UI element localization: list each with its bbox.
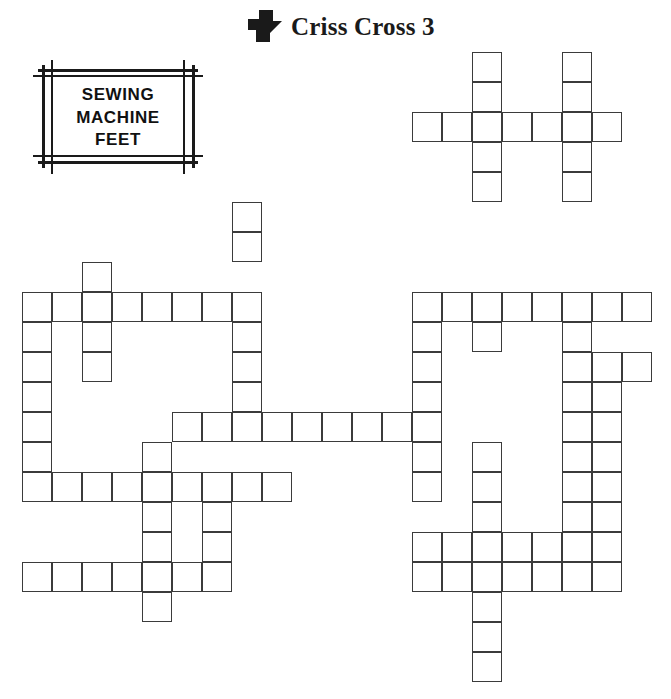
crossword-cell[interactable]	[82, 352, 112, 382]
crossword-cell[interactable]	[142, 592, 172, 622]
crossword-cell[interactable]	[532, 112, 562, 142]
crossword-cell[interactable]	[472, 472, 502, 502]
crossword-cell[interactable]	[82, 292, 112, 322]
crossword-cell[interactable]	[412, 112, 442, 142]
crossword-cell[interactable]	[412, 382, 442, 412]
crossword-cell[interactable]	[22, 382, 52, 412]
crossword-cell[interactable]	[562, 382, 592, 412]
crossword-cell[interactable]	[562, 472, 592, 502]
crossword-cell[interactable]	[532, 292, 562, 322]
crossword-cell[interactable]	[472, 292, 502, 322]
crossword-cell[interactable]	[562, 322, 592, 352]
crossword-cell[interactable]	[562, 562, 592, 592]
crossword-cell[interactable]	[142, 502, 172, 532]
crossword-cell[interactable]	[562, 352, 592, 382]
crossword-cell[interactable]	[232, 412, 262, 442]
crossword-cell[interactable]	[172, 292, 202, 322]
crossword-cell[interactable]	[172, 412, 202, 442]
crossword-cell[interactable]	[622, 352, 652, 382]
crossword-cell[interactable]	[202, 532, 232, 562]
crossword-cell[interactable]	[142, 442, 172, 472]
crossword-cell[interactable]	[232, 352, 262, 382]
crossword-cell[interactable]	[562, 82, 592, 112]
crossword-cell[interactable]	[502, 112, 532, 142]
crossword-cell[interactable]	[412, 562, 442, 592]
crossword-cell[interactable]	[82, 262, 112, 292]
crossword-cell[interactable]	[412, 292, 442, 322]
crossword-cell[interactable]	[592, 532, 622, 562]
crossword-cell[interactable]	[22, 322, 52, 352]
crossword-cell[interactable]	[22, 562, 52, 592]
crossword-cell[interactable]	[112, 562, 142, 592]
crossword-cell[interactable]	[82, 562, 112, 592]
crossword-cell[interactable]	[562, 172, 592, 202]
crossword-cell[interactable]	[412, 472, 442, 502]
crossword-cell[interactable]	[82, 472, 112, 502]
crossword-cell[interactable]	[472, 322, 502, 352]
crossword-cell[interactable]	[232, 322, 262, 352]
crossword-cell[interactable]	[82, 322, 112, 352]
crossword-cell[interactable]	[142, 532, 172, 562]
crossword-cell[interactable]	[472, 112, 502, 142]
crossword-cell[interactable]	[592, 442, 622, 472]
crossword-cell[interactable]	[472, 442, 502, 472]
crossword-cell[interactable]	[412, 532, 442, 562]
crossword-cell[interactable]	[112, 472, 142, 502]
crossword-grid[interactable]	[0, 0, 671, 699]
crossword-cell[interactable]	[502, 562, 532, 592]
crossword-cell[interactable]	[292, 412, 322, 442]
crossword-cell[interactable]	[52, 472, 82, 502]
crossword-cell[interactable]	[22, 352, 52, 382]
crossword-cell[interactable]	[442, 112, 472, 142]
crossword-cell[interactable]	[472, 172, 502, 202]
crossword-cell[interactable]	[202, 562, 232, 592]
crossword-cell[interactable]	[112, 292, 142, 322]
crossword-cell[interactable]	[142, 562, 172, 592]
crossword-cell[interactable]	[502, 532, 532, 562]
crossword-cell[interactable]	[472, 52, 502, 82]
crossword-cell[interactable]	[562, 442, 592, 472]
crossword-cell[interactable]	[202, 292, 232, 322]
crossword-cell[interactable]	[142, 472, 172, 502]
crossword-cell[interactable]	[592, 292, 622, 322]
crossword-cell[interactable]	[202, 412, 232, 442]
crossword-cell[interactable]	[532, 532, 562, 562]
crossword-cell[interactable]	[382, 412, 412, 442]
crossword-cell[interactable]	[562, 502, 592, 532]
crossword-cell[interactable]	[232, 292, 262, 322]
crossword-cell[interactable]	[472, 592, 502, 622]
crossword-cell[interactable]	[562, 112, 592, 142]
crossword-cell[interactable]	[442, 562, 472, 592]
crossword-cell[interactable]	[622, 292, 652, 322]
crossword-cell[interactable]	[442, 532, 472, 562]
crossword-cell[interactable]	[352, 412, 382, 442]
crossword-cell[interactable]	[442, 292, 472, 322]
crossword-cell[interactable]	[22, 412, 52, 442]
crossword-cell[interactable]	[562, 532, 592, 562]
crossword-cell[interactable]	[592, 502, 622, 532]
crossword-cell[interactable]	[472, 562, 502, 592]
crossword-cell[interactable]	[472, 82, 502, 112]
crossword-cell[interactable]	[592, 562, 622, 592]
crossword-cell[interactable]	[412, 442, 442, 472]
crossword-cell[interactable]	[412, 322, 442, 352]
crossword-cell[interactable]	[562, 142, 592, 172]
crossword-cell[interactable]	[232, 382, 262, 412]
crossword-cell[interactable]	[502, 292, 532, 322]
crossword-cell[interactable]	[592, 382, 622, 412]
crossword-cell[interactable]	[22, 472, 52, 502]
crossword-cell[interactable]	[562, 412, 592, 442]
crossword-cell[interactable]	[52, 292, 82, 322]
crossword-cell[interactable]	[472, 502, 502, 532]
crossword-cell[interactable]	[172, 562, 202, 592]
crossword-cell[interactable]	[592, 352, 622, 382]
crossword-cell[interactable]	[202, 502, 232, 532]
crossword-cell[interactable]	[592, 112, 622, 142]
crossword-cell[interactable]	[592, 472, 622, 502]
crossword-cell[interactable]	[232, 472, 262, 502]
crossword-cell[interactable]	[232, 232, 262, 262]
crossword-cell[interactable]	[472, 622, 502, 652]
crossword-cell[interactable]	[592, 412, 622, 442]
crossword-cell[interactable]	[52, 562, 82, 592]
crossword-cell[interactable]	[202, 472, 232, 502]
